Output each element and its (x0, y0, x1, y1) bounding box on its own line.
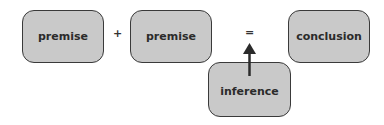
arrow-icon (0, 0, 384, 125)
